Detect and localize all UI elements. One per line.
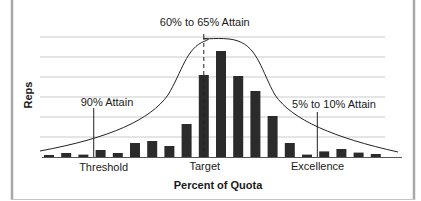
annotation-excellence-label: 5% to 10% Attain <box>292 98 376 110</box>
bar <box>216 51 226 157</box>
x-tick-label-target: Target <box>190 160 221 172</box>
bar <box>233 76 243 157</box>
chart: 60% to 65% Attain 90% Attain 5% to 10% A… <box>0 0 421 201</box>
bar <box>268 116 278 157</box>
bar <box>182 124 192 157</box>
gridlines <box>40 37 385 137</box>
bar <box>371 154 381 157</box>
bar <box>302 155 312 157</box>
bar <box>319 151 329 157</box>
x-tick-label-threshold: Threshold <box>79 161 128 173</box>
bar <box>61 153 71 157</box>
annotation-peak-label: 60% to 65% Attain <box>160 16 250 28</box>
bar <box>164 146 174 157</box>
bar <box>113 153 123 157</box>
bar <box>336 149 346 157</box>
y-axis-title: Reps <box>22 82 34 109</box>
bar <box>44 155 54 157</box>
bar <box>78 155 88 157</box>
bar <box>354 153 364 157</box>
bar <box>147 141 157 157</box>
bar <box>96 150 106 157</box>
x-axis-title: Percent of Quota <box>174 179 264 191</box>
bar <box>250 91 260 157</box>
x-tick-label-excellence: Excellence <box>291 160 344 172</box>
annotation-threshold-label: 90% Attain <box>81 96 134 108</box>
bar <box>130 143 140 157</box>
bar <box>285 143 295 157</box>
